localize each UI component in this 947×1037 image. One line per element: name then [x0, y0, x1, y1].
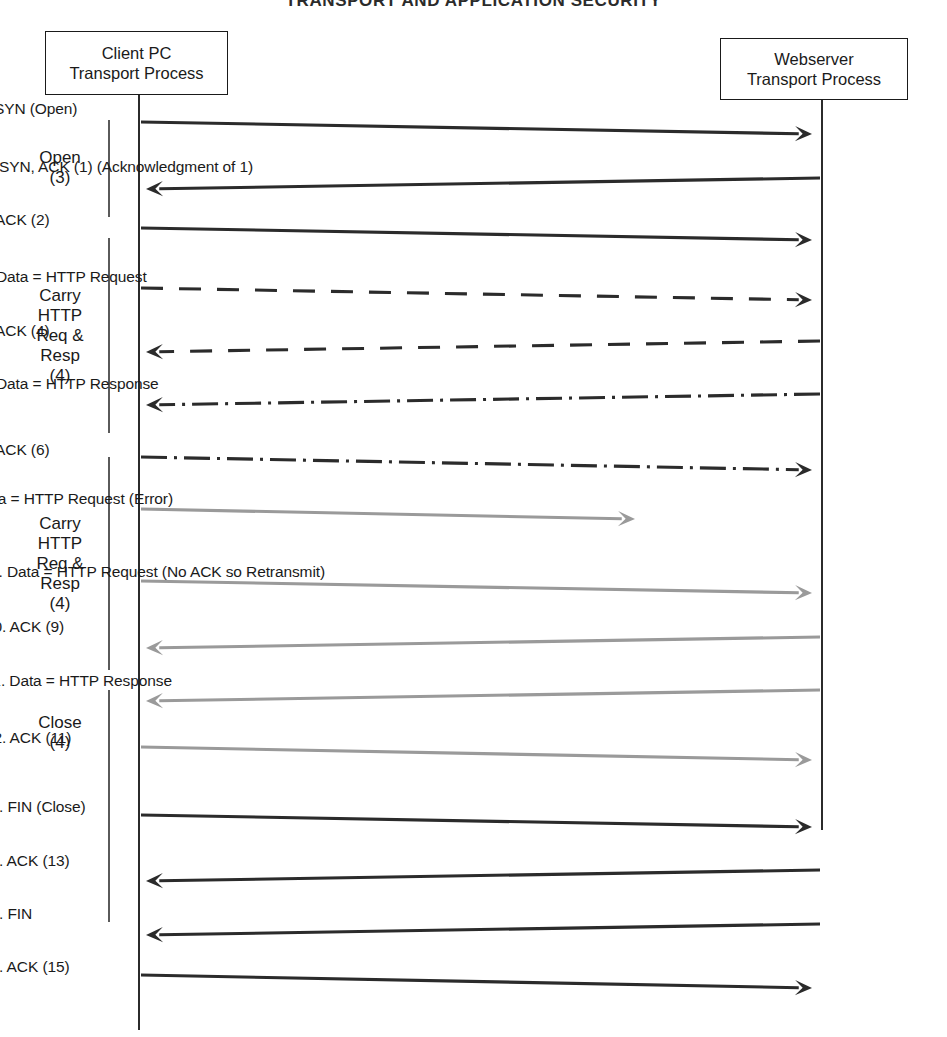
server-node-line2: Transport Process — [747, 69, 881, 89]
message-label-2: 2. SYN, ACK (1) (Acknowledgment of 1) — [0, 158, 253, 176]
message-label-13: 13. FIN (Close) — [0, 798, 86, 816]
message-arrow-7 — [141, 457, 812, 477]
message-arrow-2 — [146, 178, 820, 196]
message-line-16 — [141, 975, 799, 988]
message-arrow-10 — [146, 637, 820, 655]
message-label-15: 15. FIN — [0, 905, 32, 923]
message-line-3 — [141, 228, 799, 240]
message-arrow-14 — [146, 870, 820, 888]
message-arrow-16 — [141, 975, 812, 995]
message-line-5 — [159, 341, 820, 352]
message-label-8: 8. Data = HTTP Request (Error) — [0, 490, 173, 508]
message-arrow-9 — [141, 581, 812, 600]
message-arrows-layer — [0, 0, 947, 1037]
message-line-2 — [159, 178, 820, 189]
message-arrow-15 — [146, 924, 820, 942]
message-line-15 — [159, 924, 820, 935]
server-node-line1: Webserver — [774, 49, 853, 69]
phase-carry-http-2-label-line: Carry — [18, 514, 102, 534]
message-label-11: 11. Data = HTTP Response — [0, 672, 172, 690]
phase-carry-http-2-label-line: (4) — [18, 594, 102, 614]
message-label-14: 14. ACK (13) — [0, 852, 70, 870]
message-label-6: 6. Data = HTTP Response — [0, 375, 159, 393]
phase-carry-http-2-label-line: HTTP — [18, 534, 102, 554]
message-line-1 — [141, 122, 799, 134]
message-arrow-5 — [146, 341, 820, 359]
message-arrow-3 — [141, 228, 812, 247]
message-line-4 — [141, 288, 799, 300]
message-label-1: 1. SYN (Open) — [0, 100, 77, 118]
message-line-11 — [159, 690, 820, 701]
message-line-7 — [141, 457, 799, 470]
client-node-line2: Transport Process — [69, 63, 203, 83]
message-label-4: 4. Data = HTTP Request — [0, 268, 147, 286]
client-node: Client PCTransport Process — [45, 31, 228, 95]
message-arrow-11 — [146, 690, 820, 708]
message-arrow-6 — [146, 394, 820, 412]
message-arrow-13 — [141, 815, 812, 834]
message-line-13 — [141, 815, 799, 827]
message-line-12 — [141, 747, 799, 760]
message-line-8 — [141, 509, 622, 519]
phase-carry-http-1-label-line: Carry — [18, 286, 102, 306]
message-arrow-1 — [141, 122, 812, 141]
message-label-5: 5. ACK (4) — [0, 322, 50, 340]
server-node: WebserverTransport Process — [720, 38, 908, 100]
message-label-12: 12. ACK (11) — [0, 729, 71, 747]
message-line-6 — [159, 394, 820, 405]
message-line-9 — [141, 581, 799, 593]
message-label-7: 7. ACK (6) — [0, 441, 50, 459]
message-arrow-4 — [141, 288, 812, 307]
message-arrow-8 — [141, 509, 635, 526]
message-line-10 — [159, 637, 820, 648]
message-arrow-12 — [141, 747, 812, 767]
client-node-line1: Client PC — [102, 43, 172, 63]
phase-close-bar — [108, 690, 110, 922]
message-label-16: 16. ACK (15) — [0, 958, 70, 976]
diagram-canvas: TRANSPORT AND APPLICATION SECURITY Clien… — [0, 0, 947, 1037]
message-label-10: 10. ACK (9) — [0, 618, 64, 636]
message-label-3: 3. ACK (2) — [0, 211, 50, 229]
server-lifeline — [821, 100, 823, 830]
phase-carry-http-1-label-line: Resp — [18, 346, 102, 366]
message-label-9: 9. Data = HTTP Request (No ACK so Retran… — [0, 563, 325, 581]
message-line-14 — [159, 870, 820, 881]
